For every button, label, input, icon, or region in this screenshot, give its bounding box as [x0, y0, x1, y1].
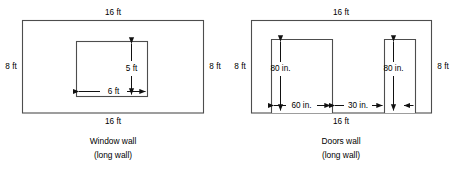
doors-wall-bottom-width-label: 16 ft	[333, 117, 350, 126]
window-wall-left-height-label: 8 ft	[5, 62, 17, 71]
doors-wall-right-height-label: 8 ft	[437, 62, 449, 71]
door-gap-width-label: 30 in.	[348, 101, 368, 110]
window-wall-top-width-label: 16 ft	[105, 8, 122, 17]
door-right-height-label: 80 in.	[383, 64, 403, 73]
doors-wall-caption-line1: Doors wall	[321, 136, 360, 146]
door-left-height-label: 80 in.	[270, 64, 290, 73]
wall-elevations-figure: 16 ft 16 ft 8 ft 8 ft 5 ft 6 ft Window w…	[0, 0, 456, 170]
window-width-label: 6 ft	[108, 87, 120, 96]
panel-window-wall: 16 ft 16 ft 8 ft 8 ft 5 ft 6 ft Window w…	[5, 8, 221, 160]
diagram-canvas: 16 ft 16 ft 8 ft 8 ft 5 ft 6 ft Window w…	[0, 0, 456, 170]
doors-wall-caption-line2: (long wall)	[322, 150, 360, 160]
doors-wall-top-width-label: 16 ft	[333, 8, 350, 17]
window-wall-right-height-label: 8 ft	[209, 62, 221, 71]
door-left-width-label: 60 in.	[291, 101, 311, 110]
panel-doors-wall: 16 ft 16 ft 8 ft 8 ft 80 in. 60 in. 30 i…	[234, 8, 449, 160]
window-height-label: 5 ft	[126, 64, 138, 73]
door-right-outline	[385, 40, 416, 114]
window-wall-bottom-width-label: 16 ft	[105, 117, 122, 126]
window-wall-caption-line1: Window wall	[90, 136, 137, 146]
doors-wall-left-height-label: 8 ft	[234, 62, 246, 71]
window-wall-caption-line2: (long wall)	[94, 150, 132, 160]
